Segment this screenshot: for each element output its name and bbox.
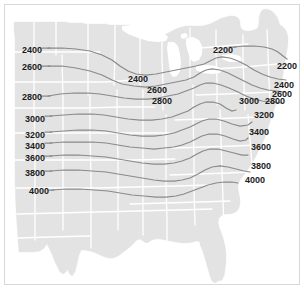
contour-label-left-2400: 2400	[22, 45, 42, 55]
contour-label-mid-2600: 2600	[147, 85, 167, 95]
contour-label-mid-2800: 2800	[152, 96, 172, 106]
contour-label-right-2200a: 2200	[213, 45, 233, 55]
contour-label-right-3400: 3400	[249, 127, 269, 137]
contour-label-right-2200b: 2200	[277, 61, 297, 71]
contour-label-right-3600: 3600	[251, 142, 271, 152]
contour-label-right-2800: 2800	[265, 96, 285, 106]
contour-label-left-3000: 3000	[25, 114, 45, 124]
contour-label-left-2600: 2600	[22, 62, 42, 72]
contour-label-left-4000: 4000	[29, 186, 49, 196]
contour-label-mid-2400: 2400	[128, 74, 148, 84]
contour-map-figure: 2400260028003000320034003600380040002400…	[0, 0, 304, 289]
contour-label-left-3400: 3400	[25, 141, 45, 151]
contour-label-left-2800: 2800	[22, 92, 42, 102]
new-england-shape	[257, 9, 281, 51]
contour-label-left-3200: 3200	[25, 130, 45, 140]
contour-label-right-3800: 3800	[251, 161, 271, 171]
contour-label-right-4000: 4000	[245, 175, 265, 185]
contour-label-left-3600: 3600	[25, 153, 45, 163]
contour-label-right-3200: 3200	[254, 110, 274, 120]
contour-label-right-3000: 3000	[239, 96, 259, 106]
contour-label-left-3800: 3800	[25, 168, 45, 178]
